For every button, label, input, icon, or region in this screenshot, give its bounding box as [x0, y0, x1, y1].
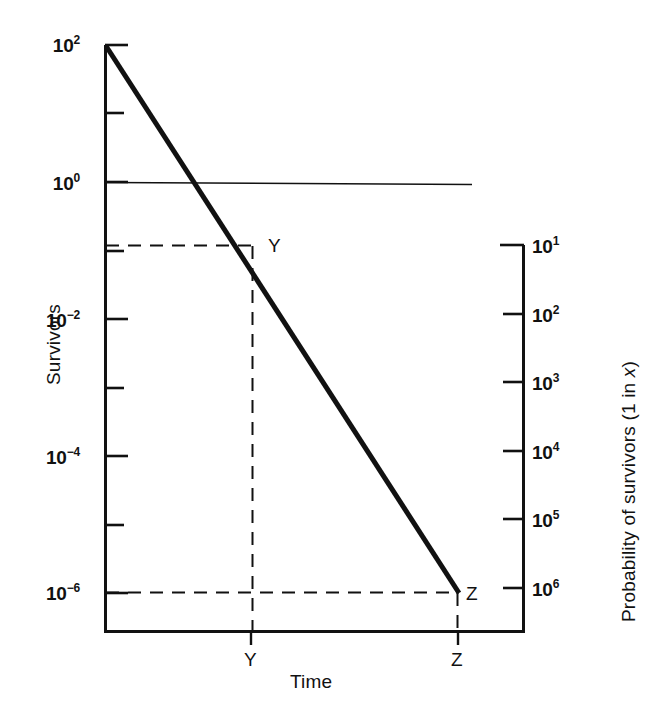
y2-axis-title-post: ) [618, 361, 639, 368]
guide-lines-Z [106, 593, 459, 631]
y-tick-label-1e-4: 10−4 [14, 448, 80, 467]
y2-tick-label-1e3: 103 [532, 374, 559, 393]
y2-axis-title: Probability of survivors (1 in x) [619, 361, 638, 622]
y2-axis-title-pre: Probability of survivors (1 in [618, 377, 639, 622]
x-axis-title: Time [290, 672, 332, 691]
y-tick-label-1e0: 100 [22, 174, 80, 193]
annotation-point-Z: Z [466, 584, 478, 603]
annotation-point-Y: Y [268, 236, 281, 255]
series-survival-decay [106, 46, 459, 593]
y-tick-label-1e-6: 10−6 [14, 584, 80, 603]
y2-tick-label-1e1: 101 [532, 237, 559, 256]
unit-reference-line [106, 183, 472, 185]
axis-right-ticks [500, 245, 524, 588]
y2-tick-label-1e6: 106 [532, 580, 559, 599]
y2-tick-label-1e4: 104 [532, 443, 559, 462]
y2-axis-title-variable: x [618, 367, 639, 377]
y2-tick-label-1e2: 102 [532, 306, 559, 325]
axis-left-ticks [105, 45, 128, 593]
y-tick-label-1e2: 102 [22, 36, 80, 55]
chart-canvas [0, 0, 655, 721]
guide-lines-Y [106, 246, 253, 631]
y-axis-title: Survivors [44, 304, 63, 385]
chart-figure: 102 100 10−2 10−4 10−6 101 102 103 104 1… [0, 0, 655, 721]
y2-tick-label-1e5: 105 [532, 511, 559, 530]
x-tick-label-Z: Z [451, 650, 463, 669]
axis-bottom-ticks [251, 631, 458, 645]
x-tick-label-Y: Y [244, 650, 257, 669]
